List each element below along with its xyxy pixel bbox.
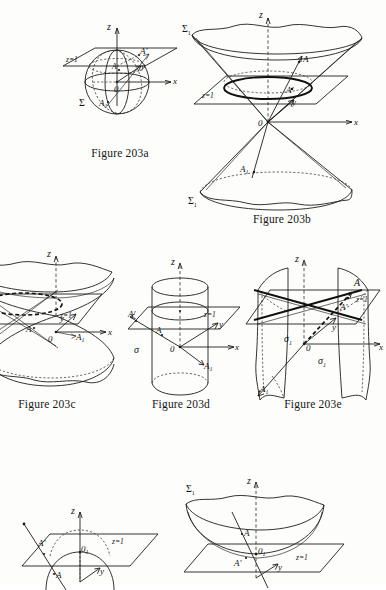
label-z-axis-203g: z [246,475,251,486]
label-origin-203e: 0 [306,343,311,353]
label-point-a1-203d: A1 [203,361,213,372]
caption-203d: Figure 203d [116,398,246,410]
label-z-axis-203e: z [294,253,299,264]
label-sigma-203g: Σ1 [186,483,195,496]
label-point-a-prime-203d: A' [127,309,136,319]
label-plane-203d: z=1 [203,310,216,319]
label-point-a1-203b: A1 [239,164,249,175]
label-point-a-prime-203e: A' [339,302,348,312]
label-origin-203f: 01 [81,544,89,555]
label-point-a1-203c: A1 [75,332,85,343]
label-point-a-203f: A [55,570,62,580]
label-point-a-203a: A [111,62,117,71]
label-sigma-203d: σ [134,344,140,355]
label-sigma-bottom-203b: Σ1 [188,195,197,208]
label-point-a-203g: A [243,528,250,538]
label-origin-203g: 01 [258,546,266,557]
caption-203c: Figure 203c [0,398,102,410]
label-y-axis-203f: y [99,566,104,576]
label-y-axis-203b: y [291,97,296,107]
figure-203c: z z=1 x [0,248,122,398]
figure-203b: z z=1 [182,4,382,210]
label-z-axis-203b: z [258,9,263,20]
label-plane-203b: z=1 [201,91,214,100]
caption-203b: Figure 203b [182,213,382,225]
label-sigma-right-203e: σ1 [318,355,326,368]
label-z-axis-203d: z [170,256,175,267]
label-sigma-left-203e: σ1 [284,333,292,346]
label-origin-203d: 0 [170,344,175,354]
label-sigma-203a: Σ [79,97,85,108]
caption-203e: Figure 203e [248,398,378,410]
label-point-a-203b: A [302,54,309,64]
label-point-a1-203a: A1 [98,98,108,109]
caption-203a: Figure 203a [55,147,185,159]
label-point-a-203c: A [25,324,32,334]
label-point-a-prime-203f: A' [37,538,46,548]
label-x-axis-203b: x [353,117,358,127]
figure-203d: z z=1 x y 0 [128,255,246,405]
figure-203a: z z=1 x y 0 [55,10,185,140]
label-origin-203c: 0 [48,334,53,344]
label-y-axis-203d: y [218,319,223,329]
label-plane-203a: z=1 [65,55,78,64]
label-point-a-203e: A [353,277,361,288]
label-origin-203b: 0 [258,118,263,128]
figure-203e: z z=1 [240,252,386,407]
label-plane-203f: z=1 [111,537,124,546]
label-y-axis-203c: y [59,313,64,323]
label-y-axis-203e: y [331,322,336,332]
figure-203f: z z=1 A' A 01 y [8,490,186,590]
label-y-axis-203g: y [277,562,282,572]
figure-203g: z z=1 A A' 01 y Σ1 [184,468,382,588]
label-x-axis-203c: x [107,327,112,337]
label-z-axis-203a: z [106,21,111,32]
label-sigma-top-203b: Σ1 [182,23,191,36]
label-x-axis-203e: x [378,342,383,352]
label-point-a-prime-203b: A' [285,85,294,95]
label-point-a-prime-203a: A' [139,46,148,56]
label-z-axis-203c: z [46,248,51,259]
label-z-axis-203f: z [70,505,75,516]
label-x-axis-203a: x [172,76,177,86]
label-plane-203g: z=1 [295,553,308,562]
label-point-a-203d: A [155,325,162,335]
label-point-a-prime-203g: A' [233,558,242,568]
label-x-axis-203d: x [234,342,239,352]
